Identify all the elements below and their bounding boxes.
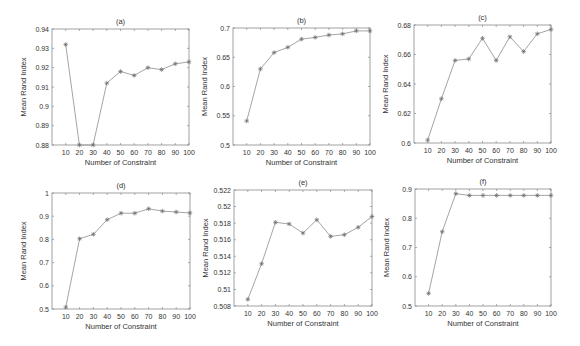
x-tick-label: 90 [352, 149, 360, 156]
y-tick-label: 0.6 [401, 140, 411, 147]
y-tick-label: 0.89 [35, 122, 49, 129]
x-axis: 102030405060708090100 [424, 25, 557, 154]
star-marker-icon [425, 138, 430, 143]
data-series-line [247, 31, 370, 121]
x-tick-label: 30 [451, 147, 459, 154]
subplot-f: 102030405060708090100Number of Constrain… [0, 0, 580, 346]
x-tick-label: 60 [313, 310, 321, 317]
star-marker-icon [173, 62, 178, 67]
star-marker-icon [327, 33, 332, 38]
star-marker-icon [287, 222, 292, 227]
plot-area [233, 28, 370, 145]
x-tick-label: 60 [492, 147, 500, 154]
x-tick-label: 100 [184, 313, 196, 320]
x-tick-label: 50 [298, 149, 306, 156]
plot-area [414, 25, 551, 143]
x-axis: 102030405060708090100 [244, 190, 378, 317]
y-axis: 0.60.620.640.660.68 [397, 22, 551, 147]
star-marker-icon [64, 305, 69, 310]
x-tick-label: 80 [520, 310, 528, 317]
y-axis-label: Mean Rand Index [19, 221, 28, 280]
subplot-e: 102030405060708090100Number of Constrain… [0, 0, 580, 346]
star-marker-icon [246, 297, 251, 302]
x-tick-label: 60 [311, 149, 319, 156]
star-marker-icon [342, 232, 347, 237]
x-tick-label: 50 [479, 310, 487, 317]
x-tick-label: 90 [533, 147, 541, 154]
x-tick-label: 80 [158, 149, 166, 156]
y-tick-label: 0.7 [220, 25, 230, 32]
star-marker-icon [132, 73, 137, 78]
y-tick-label: 0.7 [39, 259, 49, 266]
star-marker-icon [174, 210, 179, 215]
star-marker-icon [63, 42, 68, 47]
y-axis: 0.50.60.70.80.91 [39, 190, 190, 313]
x-tick-label: 10 [62, 313, 70, 320]
star-marker-icon [133, 211, 138, 216]
y-tick-label: 0.514 [213, 253, 231, 260]
star-marker-icon [467, 57, 472, 62]
data-markers [63, 42, 191, 147]
x-tick-label: 70 [506, 310, 514, 317]
y-axis-label: Mean Rand Index [19, 57, 28, 116]
star-marker-icon [188, 211, 193, 216]
y-tick-label: 0.6 [220, 83, 230, 90]
subplot-title: (a) [116, 17, 126, 26]
y-tick-label: 0.92 [35, 64, 49, 71]
star-marker-icon [160, 209, 165, 214]
y-tick-label: 0.52 [217, 203, 231, 210]
x-tick-label: 90 [354, 310, 362, 317]
y-tick-label: 0.64 [397, 81, 411, 88]
y-tick-label: 0.8 [402, 215, 412, 222]
star-marker-icon [440, 229, 445, 234]
x-tick-label: 30 [89, 149, 97, 156]
subplot-b: 102030405060708090100Number of Constrain… [0, 0, 580, 346]
y-axis-label: Mean Rand Index [200, 57, 209, 116]
data-markers [426, 191, 553, 295]
star-marker-icon [258, 67, 263, 72]
star-marker-icon [426, 291, 431, 296]
y-tick-label: 0.5 [402, 303, 412, 310]
star-marker-icon [146, 65, 151, 70]
x-tick-label: 10 [62, 149, 70, 156]
star-marker-icon [481, 193, 486, 198]
x-axis-label: Number of Constraint [447, 156, 519, 165]
star-marker-icon [368, 29, 373, 34]
data-markers [425, 27, 553, 142]
x-tick-label: 90 [534, 310, 542, 317]
data-series-line [428, 29, 551, 140]
x-tick-label: 10 [425, 310, 433, 317]
x-tick-label: 20 [76, 149, 84, 156]
x-tick-label: 70 [506, 147, 514, 154]
y-tick-label: 0.5 [220, 142, 230, 149]
star-marker-icon [522, 193, 527, 198]
data-series-line [429, 194, 551, 294]
star-marker-icon [77, 143, 82, 148]
y-axis: 0.5080.510.5120.5140.5160.5180.520.522 [213, 187, 372, 310]
x-tick-label: 50 [479, 147, 487, 154]
x-axis-label: Number of Constraint [85, 322, 157, 331]
star-marker-icon [508, 35, 513, 40]
y-tick-label: 0.8 [39, 236, 49, 243]
y-tick-label: 0.6 [39, 282, 49, 289]
y-tick-label: 0.93 [35, 45, 49, 52]
x-tick-label: 30 [272, 310, 280, 317]
plot-area [52, 29, 189, 145]
x-tick-label: 70 [145, 313, 153, 320]
plot-area [52, 193, 190, 309]
star-marker-icon [549, 27, 554, 32]
x-tick-label: 100 [364, 149, 376, 156]
subplot-title: (d) [116, 181, 126, 190]
x-tick-label: 10 [243, 149, 251, 156]
x-tick-label: 40 [465, 147, 473, 154]
y-tick-label: 0.522 [213, 187, 231, 194]
y-tick-label: 0.5 [39, 306, 49, 313]
star-marker-icon [340, 32, 345, 37]
star-marker-icon [259, 261, 264, 266]
y-tick-label: 0.91 [35, 84, 49, 91]
star-marker-icon [91, 232, 96, 237]
star-marker-icon [313, 35, 318, 40]
y-tick-label: 0.9 [39, 103, 49, 110]
x-tick-label: 90 [171, 149, 179, 156]
y-axis-label: Mean Rand Index [201, 218, 210, 277]
